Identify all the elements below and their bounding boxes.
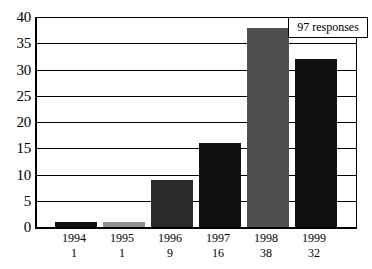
bar-1999 bbox=[295, 59, 337, 227]
x-axis-category-name: 1995 bbox=[98, 231, 146, 246]
x-axis-category-name: 1999 bbox=[290, 231, 338, 246]
x-axis-category-name: 1996 bbox=[146, 231, 194, 246]
y-tick-label: 35 bbox=[1, 36, 31, 51]
x-axis-category-value: 9 bbox=[146, 246, 194, 261]
bar-chart: 0510152025303540 97 responses 1994119951… bbox=[0, 0, 372, 269]
x-axis-category: 199838 bbox=[242, 231, 290, 261]
x-axis-labels: 199411995119969199716199838199932 bbox=[35, 231, 355, 269]
x-axis-category: 19969 bbox=[146, 231, 194, 261]
bar-1996 bbox=[151, 180, 193, 227]
x-axis-category: 19941 bbox=[50, 231, 98, 261]
y-tick-label: 15 bbox=[1, 141, 31, 156]
y-axis-labels: 0510152025303540 bbox=[0, 0, 31, 269]
responses-annotation: 97 responses bbox=[288, 17, 368, 38]
x-axis-category-value: 32 bbox=[290, 246, 338, 261]
y-tick-label: 20 bbox=[1, 115, 31, 130]
x-axis-category-value: 1 bbox=[98, 246, 146, 261]
x-axis-category: 199716 bbox=[194, 231, 242, 261]
bar-1994 bbox=[55, 222, 97, 227]
x-axis-category-value: 1 bbox=[50, 246, 98, 261]
bar-1998 bbox=[247, 28, 289, 228]
x-axis-category: 199932 bbox=[290, 231, 338, 261]
x-axis-category-name: 1994 bbox=[50, 231, 98, 246]
x-axis-category-value: 38 bbox=[242, 246, 290, 261]
bar-1997 bbox=[199, 143, 241, 227]
y-tick-label: 0 bbox=[1, 220, 31, 235]
bars-container bbox=[37, 17, 357, 227]
bar-1995 bbox=[103, 222, 145, 227]
x-axis-category-name: 1998 bbox=[242, 231, 290, 246]
y-tick-label: 10 bbox=[1, 168, 31, 183]
x-axis-category-value: 16 bbox=[194, 246, 242, 261]
y-tick-label: 25 bbox=[1, 89, 31, 104]
y-tick-label: 40 bbox=[1, 10, 31, 25]
y-tick-label: 5 bbox=[1, 194, 31, 209]
x-axis-category: 19951 bbox=[98, 231, 146, 261]
plot-area bbox=[35, 17, 357, 229]
x-axis-category-name: 1997 bbox=[194, 231, 242, 246]
y-tick-label: 30 bbox=[1, 63, 31, 78]
